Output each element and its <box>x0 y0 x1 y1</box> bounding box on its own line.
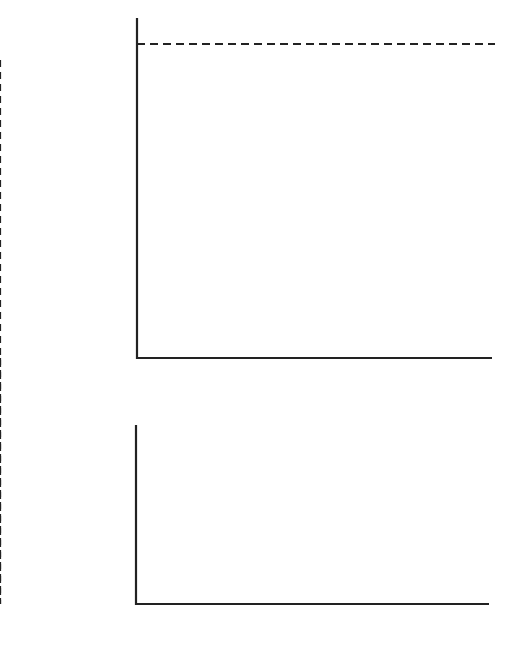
bottom-chart-axes <box>135 425 489 605</box>
top-chart-axes <box>136 18 495 359</box>
chart-canvas <box>0 0 512 657</box>
